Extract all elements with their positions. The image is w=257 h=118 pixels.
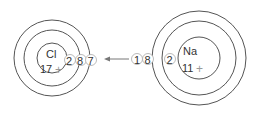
cl-symbol: Cl (46, 48, 56, 60)
cl-shell1-count: 2 (66, 55, 72, 67)
diagram-canvas: Cl 17 + 2 8 7 Na 11 + 2 8 1 (0, 0, 257, 118)
chlorine-atom: Cl 17 + 2 8 7 (14, 20, 97, 96)
na-nuclear-charge: 11 (182, 62, 193, 74)
cl-shell3-count: 7 (88, 55, 94, 67)
transfer-arrow (104, 57, 129, 62)
cl-shell2-count: 8 (77, 55, 83, 67)
cl-nuclear-charge: 17 (40, 63, 52, 75)
cl-charge-sign: + (55, 63, 62, 77)
arrow-head-icon (104, 57, 110, 62)
sodium-atom: Na 11 + 2 8 1 (132, 11, 247, 105)
na-charge-sign: + (196, 62, 203, 76)
na-shell1-count: 2 (167, 54, 173, 66)
na-shell2-count: 8 (145, 54, 151, 66)
na-shell3-count: 1 (134, 54, 140, 66)
ionic-bond-diagram: Cl 17 + 2 8 7 Na 11 + 2 8 1 (0, 0, 257, 118)
na-symbol: Na (183, 45, 198, 57)
